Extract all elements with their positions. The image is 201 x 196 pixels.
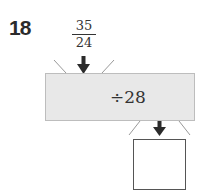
- operation-label: ÷28: [46, 87, 194, 107]
- denominator: 24: [70, 35, 98, 51]
- numerator: 35: [70, 18, 98, 34]
- input-fraction: 35 24: [70, 18, 98, 51]
- arrow-down-icon: [153, 121, 166, 136]
- operation-box: ÷28: [45, 73, 195, 121]
- arrow-down-icon: [77, 56, 90, 74]
- problem-number: 18: [9, 16, 30, 40]
- answer-box[interactable]: [133, 139, 186, 190]
